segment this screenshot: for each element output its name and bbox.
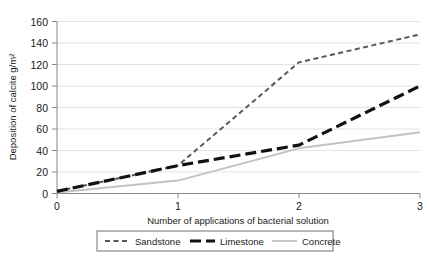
- y-tick-label: 120: [30, 59, 48, 71]
- chart-legend: Sandstone Limestone Concrete: [97, 231, 341, 251]
- y-tick-label: 60: [36, 123, 48, 135]
- x-tick-label: 2: [296, 200, 302, 212]
- y-tick-label: 160: [30, 16, 48, 28]
- x-axis-title: Number of applications of bacterial solu…: [147, 215, 329, 226]
- x-tick-label: 0: [54, 200, 60, 212]
- y-tick-label: 40: [36, 145, 48, 157]
- y-tick-label: 80: [36, 102, 48, 114]
- y-tick-label: 100: [30, 80, 48, 92]
- legend-label-concrete: Concrete: [302, 236, 341, 247]
- y-tick-label: 20: [36, 166, 48, 178]
- legend-label-limestone: Limestone: [220, 236, 264, 247]
- legend-label-sandstone: Sandstone: [135, 236, 180, 247]
- y-tick-label: 140: [30, 37, 48, 49]
- calcite-deposition-line-chart: 160 140 120 100 80 60 40 20 0 0 1 2 3 De…: [0, 0, 429, 265]
- x-tick-label: 3: [417, 200, 423, 212]
- chart-container: 160 140 120 100 80 60 40 20 0 0 1 2 3 De…: [0, 0, 429, 265]
- y-axis-title: Deposition of calcite g/m²: [7, 54, 18, 161]
- y-tick-label: 0: [42, 188, 48, 200]
- x-tick-label: 1: [175, 200, 181, 212]
